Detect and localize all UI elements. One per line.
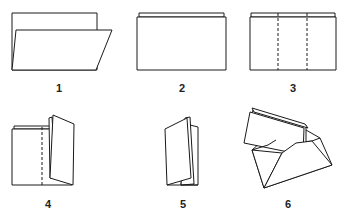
- step-3-figure: [250, 13, 336, 70]
- step-2-figure: [137, 13, 226, 70]
- step-label-1: 1: [56, 83, 62, 94]
- step-label-4: 4: [45, 199, 51, 210]
- step-label-6: 6: [285, 199, 291, 210]
- step-label-3: 3: [290, 83, 296, 94]
- step-4-figure: [12, 115, 74, 185]
- folding-diagram: [0, 0, 347, 220]
- back-edge: [251, 13, 335, 17]
- folded-front-panel: [50, 115, 74, 185]
- step-1-figure: [12, 13, 112, 70]
- front-panel: [137, 17, 226, 70]
- step-label-5: 5: [180, 199, 186, 210]
- front-flap: [12, 30, 112, 70]
- back-edge: [139, 13, 224, 17]
- step-5-figure: [165, 117, 198, 185]
- envelope-top-flap-edge: [306, 130, 320, 138]
- front-panel: [250, 17, 336, 70]
- front-panel: [165, 118, 191, 185]
- step-label-2: 2: [179, 83, 185, 94]
- step-6-figure: [244, 108, 332, 188]
